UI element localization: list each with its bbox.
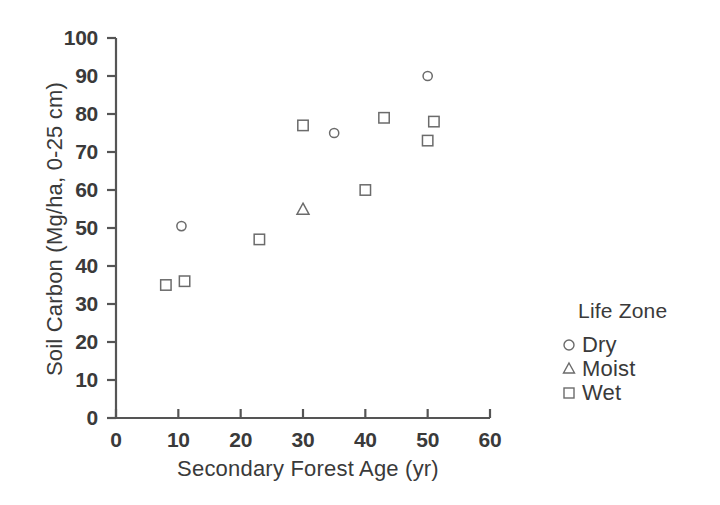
x-tick-label-50: 50 xyxy=(408,429,448,450)
legend-item-wet[interactable]: Wet xyxy=(556,381,706,405)
legend-label-dry: Dry xyxy=(582,334,617,356)
data-point-wet-2[interactable] xyxy=(254,234,264,244)
scatter-plot-figure: 0102030405060708090100 0102030405060 Sec… xyxy=(0,0,720,505)
data-point-wet-7[interactable] xyxy=(429,116,439,126)
data-point-wet-5[interactable] xyxy=(379,113,389,123)
legend-label-wet: Wet xyxy=(582,382,621,404)
x-tick-label-60: 60 xyxy=(470,429,510,450)
series-wet xyxy=(161,113,439,291)
data-point-moist-0[interactable] xyxy=(297,203,309,214)
x-tick-label-10: 10 xyxy=(158,429,198,450)
data-point-dry-0[interactable] xyxy=(177,222,186,231)
x-tick-label-40: 40 xyxy=(345,429,385,450)
legend-item-dry[interactable]: Dry xyxy=(556,333,706,357)
y-axis-title: Soil Carbon (Mg/ha, 0-25 cm) xyxy=(44,29,66,429)
data-point-wet-4[interactable] xyxy=(360,185,370,195)
x-axis-title: Secondary Forest Age (yr) xyxy=(118,458,498,480)
legend-item-moist[interactable]: Moist xyxy=(556,357,706,381)
x-tick-label-0: 0 xyxy=(96,429,136,450)
series-moist xyxy=(297,203,309,214)
legend-title: Life Zone xyxy=(578,300,706,321)
data-point-wet-1[interactable] xyxy=(179,276,189,286)
circle-marker-icon xyxy=(556,333,582,357)
triangle-marker-icon xyxy=(556,357,582,381)
data-point-dry-2[interactable] xyxy=(423,71,432,80)
x-tick-label-30: 30 xyxy=(283,429,323,450)
data-point-wet-3[interactable] xyxy=(298,120,308,130)
data-point-wet-6[interactable] xyxy=(422,135,432,145)
data-point-wet-0[interactable] xyxy=(161,280,171,290)
x-tick-label-20: 20 xyxy=(221,429,261,450)
legend-label-moist: Moist xyxy=(582,358,636,380)
square-marker-icon xyxy=(556,381,582,405)
legend: Life Zone Dry Moist Wet xyxy=(556,300,706,405)
data-point-dry-1[interactable] xyxy=(330,128,339,137)
